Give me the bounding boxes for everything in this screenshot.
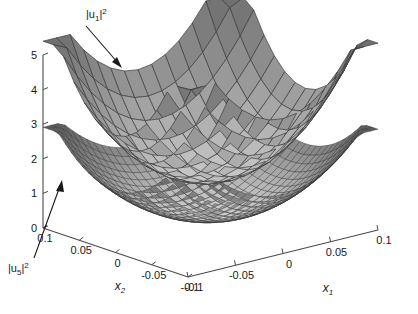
tick-label-z: 5 bbox=[31, 49, 37, 61]
tick-label-z: 2 bbox=[31, 153, 37, 165]
tick-label-x1: -0.05 bbox=[229, 269, 254, 281]
tick-label-z: 3 bbox=[31, 118, 37, 130]
tick-label-x2: -0.05 bbox=[141, 269, 166, 281]
tick-label-x1: -0.1 bbox=[185, 281, 204, 293]
tick-label-x1: 0.1 bbox=[376, 234, 391, 246]
plot-canvas: 0123450.10.050-0.05-0.1-0.1-0.0500.050.1… bbox=[0, 0, 418, 314]
tick-label-x1: 0.05 bbox=[326, 246, 347, 258]
tick-label-x2: 0.05 bbox=[71, 244, 92, 256]
tick-label-z: 4 bbox=[31, 84, 37, 96]
tick-label-z: 0 bbox=[31, 222, 37, 234]
tick-label-x1: 0 bbox=[286, 258, 292, 270]
surface-plot-figure: 0123450.10.050-0.05-0.1-0.1-0.0500.050.1… bbox=[0, 0, 418, 314]
tick-label-z: 1 bbox=[31, 187, 37, 199]
tick-label-x2: 0 bbox=[114, 257, 120, 269]
